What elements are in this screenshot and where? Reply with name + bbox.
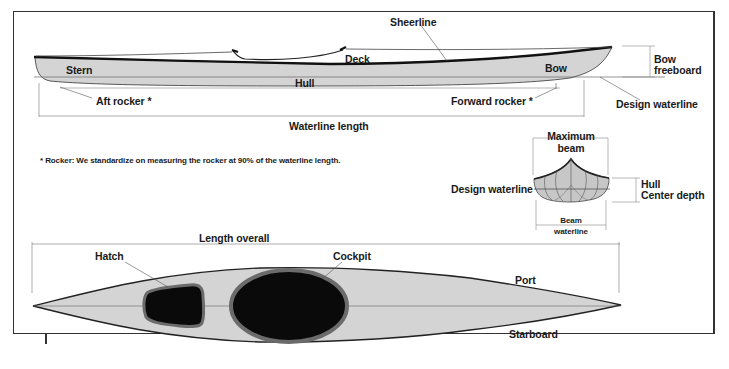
label-maximum-beam-1: Maximum — [546, 130, 596, 142]
label-waterline-length: Waterline length — [289, 120, 369, 132]
label-length-overall: Length overall — [199, 232, 269, 244]
label-starboard: Starboard — [509, 328, 558, 340]
label-stern: Stern — [66, 64, 92, 76]
label-beam-waterline-2: waterline — [546, 226, 596, 238]
label-forward-rocker: Forward rocker * — [451, 95, 533, 107]
label-hull: Hull — [295, 77, 314, 89]
label-hull-center-depth-2: Center depth — [641, 189, 705, 201]
label-design-waterline-section: Design waterline — [451, 183, 533, 195]
label-aft-rocker: Aft rocker * — [96, 95, 151, 107]
label-bow-freeboard-2: freeboard — [654, 64, 702, 76]
label-design-waterline-side: Design waterline — [616, 98, 698, 110]
label-sheerline: Sheerline — [390, 16, 436, 28]
label-cockpit: Cockpit — [333, 250, 371, 262]
rocker-footnote: * Rocker: We standardize on measuring th… — [40, 155, 340, 167]
label-port: Port — [515, 274, 536, 286]
label-maximum-beam-2: beam — [546, 142, 596, 154]
label-hatch: Hatch — [95, 250, 124, 262]
label-bow: Bow — [545, 62, 567, 74]
label-deck: Deck — [345, 53, 370, 65]
